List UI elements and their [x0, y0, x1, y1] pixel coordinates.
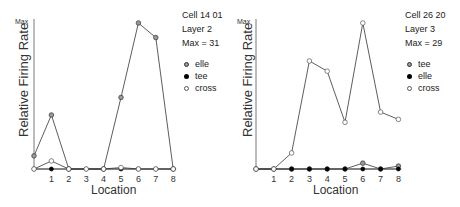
- chart-panel-cell-14-01: Max Relative Firing Rate Location 123456…: [0, 0, 230, 207]
- data-point-elle: [379, 167, 383, 171]
- data-point-cross: [289, 151, 294, 156]
- open-circle-marker-icon: [184, 86, 189, 91]
- x-tick-label: 4: [99, 174, 109, 184]
- x-tick-label: 7: [376, 174, 386, 184]
- data-point-cross: [136, 167, 141, 172]
- x-axis-label: Location: [313, 183, 358, 197]
- max-rate: Max = 31: [182, 36, 223, 50]
- data-point-cross: [67, 167, 72, 172]
- x-tick-label: 3: [304, 174, 314, 184]
- x-tick-label: 4: [322, 174, 332, 184]
- data-point-cross: [84, 167, 89, 172]
- data-point-cross: [49, 159, 54, 164]
- data-point-cross: [361, 21, 366, 26]
- data-point-cross: [254, 167, 259, 172]
- filled-circle-marker-icon: [184, 74, 189, 79]
- x-tick-label: 5: [116, 174, 126, 184]
- filled-circle-marker-icon: [407, 74, 412, 79]
- data-point-cross: [154, 167, 159, 172]
- data-point-cross: [343, 120, 348, 125]
- x-tick-label: 1: [46, 174, 56, 184]
- chart-panel-cell-26-20: Max Relative Firing Rate Location 123456…: [230, 0, 460, 207]
- y-axis-label: Relative Firing Rate: [240, 23, 255, 137]
- data-point-elle: [290, 167, 294, 171]
- data-point-cross: [101, 167, 106, 172]
- data-point-tee: [361, 161, 366, 166]
- data-point-cross: [171, 167, 176, 172]
- x-tick-label: 7: [151, 174, 161, 184]
- y-axis-label: Relative Firing Rate: [16, 23, 31, 137]
- cell-info: Cell 26 20 Layer 3 Max = 29: [405, 8, 446, 50]
- data-point-cross: [378, 110, 383, 115]
- legend: elle tee cross: [184, 58, 217, 94]
- data-point-cross: [32, 167, 37, 172]
- x-axis-label: Location: [91, 183, 136, 197]
- layer-label: Layer 3: [405, 22, 446, 36]
- series-line-elle: [34, 23, 173, 169]
- open-circle-marker-icon: [407, 86, 412, 91]
- crossed-circle-marker-icon: [184, 62, 189, 67]
- data-point-elle: [343, 167, 347, 171]
- legend-item: cross: [184, 82, 217, 94]
- x-tick-label: 3: [81, 174, 91, 184]
- data-point-cross: [307, 59, 312, 64]
- data-point-elle: [154, 35, 159, 40]
- crossed-circle-marker-icon: [407, 62, 412, 67]
- legend-item: tee: [407, 58, 440, 70]
- legend-item: tee: [184, 70, 217, 82]
- x-tick-label: 8: [393, 174, 403, 184]
- x-tick-label: 6: [358, 174, 368, 184]
- data-point-cross: [272, 167, 277, 172]
- layer-label: Layer 2: [182, 22, 223, 36]
- x-tick-label: 8: [168, 174, 178, 184]
- legend-item: elle: [184, 58, 217, 70]
- legend-item: elle: [407, 70, 440, 82]
- data-point-elle: [32, 154, 37, 159]
- data-point-elle: [49, 113, 54, 118]
- x-tick-label: 1: [269, 174, 279, 184]
- data-point-elle: [361, 167, 365, 171]
- x-tick-label: 6: [133, 174, 143, 184]
- data-point-elle: [307, 167, 311, 171]
- x-tick-label: 5: [340, 174, 350, 184]
- legend: tee elle cross: [407, 58, 440, 94]
- cell-id: Cell 26 20: [405, 8, 446, 22]
- max-rate: Max = 29: [405, 36, 446, 50]
- data-point-elle: [136, 21, 141, 26]
- data-point-cross: [119, 165, 124, 170]
- cell-id: Cell 14 01: [182, 8, 223, 22]
- data-point-elle: [119, 95, 124, 100]
- cell-info: Cell 14 01 Layer 2 Max = 31: [182, 8, 223, 50]
- series-line-cross: [256, 23, 398, 169]
- legend-item: cross: [407, 82, 440, 94]
- data-point-elle: [396, 167, 400, 171]
- x-tick-label: 2: [64, 174, 74, 184]
- data-point-cross: [325, 69, 330, 74]
- x-tick-label: 2: [287, 174, 297, 184]
- data-point-tee: [49, 167, 53, 171]
- data-point-cross: [396, 117, 401, 122]
- data-point-elle: [325, 167, 329, 171]
